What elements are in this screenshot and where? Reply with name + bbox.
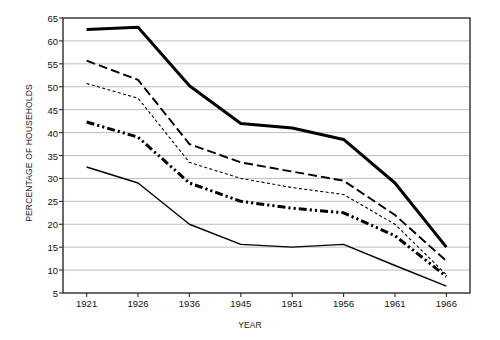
plot-area	[0, 0, 500, 340]
line-chart: PERCENTAGE OF HOUSEHOLDS YEAR 6560555045…	[0, 0, 500, 340]
